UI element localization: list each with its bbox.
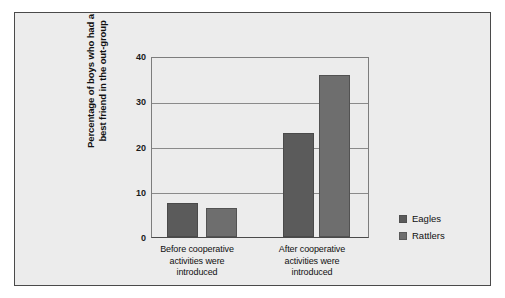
legend-label-rattlers: Rattlers [412, 230, 445, 241]
category-label-before: Before cooperative activities were intro… [131, 244, 263, 279]
chart-panel: Percentage of boys who had a best friend… [14, 12, 491, 286]
legend-swatch-icon-eagles [399, 215, 407, 223]
y-axis-title-line-1: Percentage of boys who had a [85, 0, 97, 171]
y-axis-title: Percentage of boys who had a best friend… [85, 0, 109, 171]
category-label-before-line-3: introduced [131, 267, 263, 279]
y-axis-title-line-2: best friend in the out-group [97, 0, 109, 171]
category-label-after-line-2: activities were [246, 256, 378, 268]
category-label-before-line-1: Before cooperative [131, 244, 263, 256]
category-label-after-line-3: introduced [246, 267, 378, 279]
bar-before-rattlers [206, 208, 237, 237]
y-tick-30: 30 [136, 98, 146, 107]
bar-after-rattlers [319, 75, 350, 237]
y-tick-20: 20 [136, 143, 146, 152]
legend-swatch-icon-rattlers [399, 232, 407, 240]
plot-area [151, 57, 369, 238]
legend-label-eagles: Eagles [412, 213, 441, 224]
chart-legend: Eagles Rattlers [399, 211, 445, 245]
category-label-after-line-1: After cooperative [246, 244, 378, 256]
bar-before-eagles [167, 203, 198, 237]
y-tick-40: 40 [136, 53, 146, 62]
y-tick-0: 0 [141, 234, 146, 243]
y-tick-10: 10 [136, 188, 146, 197]
category-label-before-line-2: activities were [131, 256, 263, 268]
legend-item-rattlers: Rattlers [399, 228, 445, 243]
category-label-after: After cooperative activities were introd… [246, 244, 378, 279]
y-axis-tick-labels: 40 30 20 10 0 [119, 57, 146, 238]
chart-figure: Percentage of boys who had a best friend… [0, 0, 505, 298]
legend-item-eagles: Eagles [399, 211, 445, 226]
bar-after-eagles [283, 133, 314, 237]
